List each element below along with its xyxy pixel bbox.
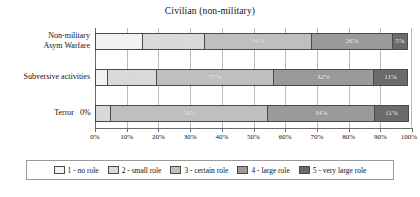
x-axis-tick — [254, 128, 255, 132]
legend-swatch-icon — [299, 166, 310, 174]
x-axis-tick — [412, 128, 413, 132]
bar-segment[interactable]: 37% — [156, 69, 273, 86]
bar-segment-label: 37% — [209, 74, 222, 81]
x-axis-tick-label: 10% — [120, 133, 133, 141]
legend-swatch-icon — [237, 166, 248, 174]
x-axis-tick-label: 100% — [401, 133, 417, 141]
legend-swatch-icon — [108, 166, 119, 174]
bar-segment[interactable]: 11% — [374, 105, 409, 122]
bar-segment[interactable]: 26% — [311, 33, 393, 50]
category-label-line: Terror — [0, 108, 74, 118]
bar-segment[interactable]: 50% — [110, 105, 269, 122]
legend-label: 5 - very large role — [313, 166, 367, 175]
legend-item-1[interactable]: 1 - no role — [54, 166, 99, 175]
x-axis-tick-label: 80% — [342, 133, 355, 141]
x-axis-tick — [349, 128, 350, 132]
category-label-line: Non-military — [0, 31, 90, 41]
x-axis-tick — [95, 128, 96, 132]
x-axis-tick — [222, 128, 223, 132]
bar-segment-label: 34% — [315, 110, 328, 117]
stacked-bar: 5% 50% 34% 11% — [95, 105, 412, 122]
bar-segment[interactable] — [95, 33, 143, 50]
x-axis-tick-label: 20% — [152, 133, 165, 141]
x-axis-tick — [317, 128, 318, 132]
bar-segment[interactable]: 5% — [95, 105, 111, 122]
x-axis-tick-label: 0% — [90, 133, 99, 141]
bar-segment-label: 26% — [345, 38, 358, 45]
category-label-line: Asym Warfare — [0, 41, 90, 51]
terror-zero-label: 0% — [80, 108, 91, 118]
x-axis-tick-label: 50% — [247, 133, 260, 141]
bar-row: 5% 50% 34% 11% — [95, 105, 412, 122]
bar-segment-label: 32% — [317, 74, 330, 81]
bar-segment-label: 50% — [183, 110, 196, 117]
bar-row: 20% 34% 26% 5% — [95, 33, 412, 50]
bar-row: 16% 37% 32% 11% — [95, 69, 412, 86]
plot-area: 20% 34% 26% 5% 16% — [95, 28, 412, 128]
bar-segment-label: 16% — [126, 74, 139, 81]
bar-segment-label: 11% — [384, 74, 397, 81]
category-label-0: Non-military Asym Warfare — [0, 31, 90, 51]
category-label-1: Subversive activities — [0, 72, 90, 82]
bar-segment-label: 5% — [395, 38, 404, 45]
bar-segment-label: 34% — [251, 38, 264, 45]
bar-segment[interactable]: 34% — [204, 33, 312, 50]
x-axis-tick — [158, 128, 159, 132]
x-axis-tick — [127, 128, 128, 132]
x-axis-tick-label: 70% — [310, 133, 323, 141]
x-axis-tick — [380, 128, 381, 132]
stacked-bar: 20% 34% 26% 5% — [95, 33, 412, 50]
bar-segment[interactable]: 34% — [267, 105, 375, 122]
legend-item-5[interactable]: 5 - very large role — [299, 166, 367, 175]
x-axis-tick — [190, 128, 191, 132]
bar-segment[interactable]: 20% — [142, 33, 205, 50]
category-label-line: Subversive activities — [0, 72, 90, 82]
bar-segment[interactable]: 5% — [392, 33, 408, 50]
chart-container: Civilian (non-military) 20% 34% — [0, 0, 420, 197]
legend-label: 3 - certain role — [184, 166, 228, 175]
x-axis-tick-label: 90% — [374, 133, 387, 141]
bar-segment[interactable]: 11% — [373, 69, 408, 86]
bar-segment[interactable]: 16% — [107, 69, 158, 86]
legend-item-3[interactable]: 3 - certain role — [170, 166, 228, 175]
legend-swatch-icon — [170, 166, 181, 174]
bar-segment-label: 20% — [167, 38, 180, 45]
legend-label: 1 - no role — [68, 166, 99, 175]
bar-segment[interactable]: 32% — [273, 69, 374, 86]
category-label-2: Terror — [0, 108, 74, 118]
legend-item-2[interactable]: 2 - small role — [108, 166, 162, 175]
legend-item-4[interactable]: 4 - large role — [237, 166, 289, 175]
x-axis-tick-label: 60% — [279, 133, 292, 141]
bar-segment-label: 11% — [385, 110, 398, 117]
chart-legend: 1 - no role 2 - small role 3 - certain r… — [26, 160, 394, 180]
legend-label: 4 - large role — [251, 166, 289, 175]
chart-title: Civilian (non-military) — [0, 6, 420, 16]
legend-label: 2 - small role — [122, 166, 162, 175]
bar-segment-label: 5% — [98, 110, 107, 117]
legend-swatch-icon — [54, 166, 65, 174]
stacked-bar: 16% 37% 32% 11% — [95, 69, 412, 86]
x-axis-tick — [285, 128, 286, 132]
x-axis-tick-label: 40% — [215, 133, 228, 141]
x-axis-tick-label: 30% — [184, 133, 197, 141]
